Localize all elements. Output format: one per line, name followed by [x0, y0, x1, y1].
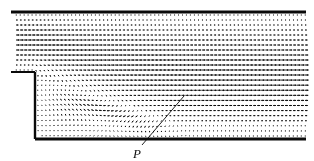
velocity-vector-field-plot	[0, 0, 314, 161]
cfd-vector-field-figure: P	[0, 0, 314, 161]
